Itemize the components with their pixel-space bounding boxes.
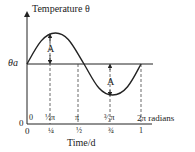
tick-day-quarter: ¼: [48, 127, 54, 135]
x-axis-label: Time/d: [67, 138, 96, 148]
tick-day-0: 0: [25, 127, 30, 136]
tick-rad-half-pi: ½π: [45, 114, 55, 122]
tick-rad-0: 0: [29, 114, 33, 122]
theta-a-label: θa: [8, 58, 18, 68]
tick-rad-2pi: 2π radians: [137, 114, 174, 123]
tick-day-1: 1: [139, 127, 143, 135]
y-axis-label: Temperature θ: [32, 4, 90, 14]
tick-day-three-quarter: ¾: [108, 127, 114, 135]
tick-day-half: ½: [76, 127, 82, 135]
origin-label-top: 0: [19, 119, 24, 128]
tick-rad-pi: π: [75, 114, 79, 122]
tick-rad-three-half-pi: ³⁄₂π: [104, 114, 115, 122]
amplitude-label-peak: A: [47, 44, 54, 54]
amplitude-label-trough: A: [107, 77, 114, 87]
dashed-guides: [50, 33, 141, 124]
amplitude-arrows: [50, 36, 110, 94]
